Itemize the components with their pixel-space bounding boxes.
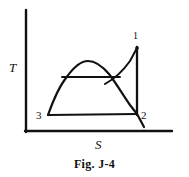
- y-axis-label: T: [9, 61, 16, 74]
- state-point-1-label: 1: [133, 31, 138, 41]
- superheat-curve: [105, 48, 137, 84]
- x-axis-label: S: [95, 138, 102, 151]
- figure-caption: Fig. J-4: [0, 157, 189, 172]
- condenser-line-2-3: [48, 114, 137, 115]
- figure-container: T S 1 2 3 Fig. J-4: [0, 0, 189, 177]
- state-point-2-label: 2: [141, 110, 147, 121]
- state-point-3-label: 3: [36, 110, 42, 121]
- state-point-1-marker: [135, 46, 139, 50]
